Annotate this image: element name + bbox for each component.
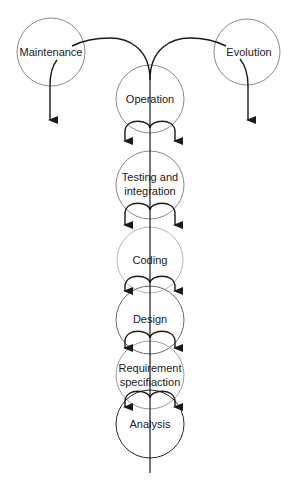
label-requirement-line1: Requirement: [119, 362, 182, 374]
lifecycle-diagram: Maintenance Evolution Operation Testing …: [0, 0, 293, 485]
split-right-design: [150, 331, 175, 348]
label-maintenance: Maintenance: [20, 46, 83, 58]
node-circles: [17, 18, 280, 458]
label-design: Design: [133, 313, 167, 325]
label-analysis: Analysis: [130, 418, 171, 430]
split-left-testing: [125, 203, 150, 225]
label-operation: Operation: [126, 93, 174, 105]
label-evolution: Evolution: [226, 46, 271, 58]
diagram-svg: Maintenance Evolution Operation Testing …: [0, 0, 293, 485]
split-right-testing: [150, 203, 175, 225]
label-testing-line2: integration: [124, 185, 175, 197]
label-coding: Coding: [133, 254, 168, 266]
label-requirement-line2: specifiaction: [120, 376, 181, 388]
label-testing-line1: Testing and: [122, 171, 178, 183]
split-right-requirement: [150, 391, 175, 407]
node-labels: Maintenance Evolution Operation Testing …: [20, 46, 272, 430]
arrow-evolution-down: [240, 59, 248, 120]
split-left-design: [125, 331, 150, 348]
arrow-maintenance-down: [50, 60, 57, 120]
split-left-requirement: [125, 391, 150, 407]
